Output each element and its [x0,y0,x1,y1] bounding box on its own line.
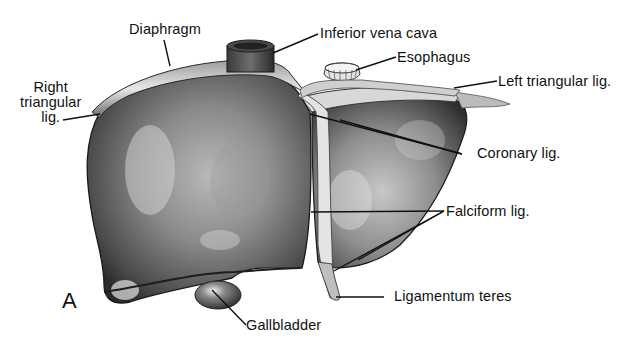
label-inferior-vena-cava: Inferior vena cava [320,26,437,41]
liver-illustration [0,0,644,359]
label-left-triangular-ligament: Left triangular lig. [498,74,611,89]
panel-letter: A [62,288,77,314]
inferior-vena-cava [227,40,274,72]
label-gallbladder: Gallbladder [246,318,321,333]
gallbladder [195,281,241,309]
liver-anatomy-figure: Diaphragm Inferior vena cava Esophagus L… [0,0,644,359]
label-right-triangular-line2: triangular [20,95,81,110]
label-right-triangular-ligament: Right triangular lig. [20,80,81,126]
label-falciform-ligament: Falciform lig. [446,204,530,219]
label-ligamentum-teres: Ligamentum teres [394,289,512,304]
label-diaphragm: Diaphragm [129,22,201,37]
label-right-triangular-line1: Right [20,80,81,95]
label-right-triangular-line3: lig. [20,110,81,125]
label-esophagus: Esophagus [397,50,470,65]
label-coronary-ligament: Coronary lig. [477,146,561,161]
